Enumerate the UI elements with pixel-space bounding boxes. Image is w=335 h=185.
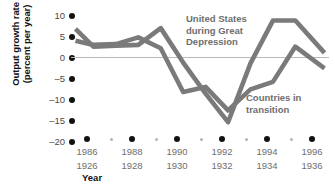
x-tick-dot-1991-icon [200,138,203,141]
x-label-bottom-1928: 1928 [112,160,152,172]
x-label-top-1996: 1996 [292,146,332,158]
x-label-top-1990: 1990 [157,146,197,158]
x-label-top-1992: 1992 [202,146,242,158]
x-tick-dot-1995-icon [290,138,293,141]
x-label-bottom-1934: 1934 [247,160,287,172]
x-label-top-1986: 1986 [67,146,107,158]
x-tick-dot-1996-icon [309,136,315,142]
x-tick-dot-1992-icon [219,136,225,142]
x-tick-dot-1988-icon [129,136,135,142]
x-tick-dot-1986-icon [84,136,90,142]
x-label-top-1988: 1988 [112,146,152,158]
x-label-bottom-1936: 1936 [292,160,332,172]
x-tick-dot-1987-icon [110,138,113,141]
transition-annotation-line1: Countries in [246,92,301,104]
us-annotation: United States during Great Depression [186,13,247,48]
x-label-bottom-1930: 1930 [157,160,197,172]
us-annotation-line3: Depression [186,36,247,48]
transition-annotation: Countries in transition [246,92,301,115]
x-axis-title: Year [82,172,102,183]
x-tick-dot-1990-icon [174,136,180,142]
x-tick-dot-1989-icon [155,138,158,141]
x-label-bottom-1926: 1926 [67,160,107,172]
us-annotation-line1: United States [186,13,247,25]
x-label-bottom-1932: 1932 [202,160,242,172]
x-tick-dot-1993-icon [245,138,248,141]
chart-container: Output growth rate (percent per year) 10… [0,0,335,185]
x-tick-dot-1994-icon [264,136,270,142]
us-annotation-line2: during Great [186,25,247,37]
x-label-top-1994: 1994 [247,146,287,158]
transition-annotation-line2: transition [246,104,301,116]
